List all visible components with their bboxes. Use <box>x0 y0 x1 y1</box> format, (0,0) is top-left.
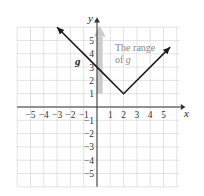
range-annotation-prefix: of <box>115 54 126 65</box>
range-annotation-line2: of g <box>115 54 131 65</box>
x-tick-label: −3 <box>52 110 62 120</box>
x-axis-label: x <box>183 107 189 119</box>
y-tick-label: 2 <box>89 76 94 86</box>
range-annotation-var: g <box>126 54 131 65</box>
coordinate-plane: −5−4−3−2−11234554321−1−2−3−4−5 x y g The… <box>0 0 204 196</box>
y-tick-label: −1 <box>84 116 94 126</box>
x-tick-label: −5 <box>25 110 35 120</box>
range-annotation-line1: The range <box>115 42 156 53</box>
function-label: g <box>74 55 81 67</box>
y-tick-label: −4 <box>84 156 94 166</box>
x-tick-label: 1 <box>108 110 113 120</box>
range-band <box>97 37 103 94</box>
x-tick-label: 3 <box>135 110 140 120</box>
range-arrow <box>94 26 106 94</box>
y-tick-label: 1 <box>89 89 94 99</box>
y-axis-arrow-icon <box>94 17 100 22</box>
function-graph: −5−4−3−2−11234554321−1−2−3−4−5 x y g The… <box>0 0 204 196</box>
x-tick-label: 2 <box>121 110 126 120</box>
y-tick-label: −3 <box>84 142 94 152</box>
x-tick-label: 4 <box>148 110 153 120</box>
x-tick-label: −4 <box>39 110 49 120</box>
y-tick-label: −2 <box>84 129 94 139</box>
x-tick-label: 5 <box>161 110 166 120</box>
x-tick-label: −2 <box>65 110 75 120</box>
y-tick-label: −5 <box>84 169 94 179</box>
y-tick-label: 5 <box>89 36 94 46</box>
y-tick-label: 4 <box>89 49 94 59</box>
y-axis-label: y <box>87 12 93 24</box>
